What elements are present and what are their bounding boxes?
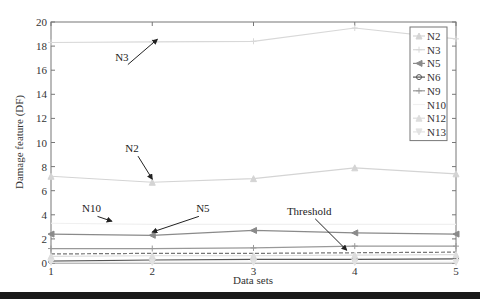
data-point [48, 39, 54, 45]
y-tick-label: 8 [42, 161, 48, 173]
series-n2 [48, 165, 459, 185]
y-tick-label: 10 [36, 137, 48, 149]
annotation-label: N3 [115, 51, 129, 63]
data-point [352, 243, 358, 249]
data-point [352, 25, 358, 31]
data-point [251, 245, 257, 251]
y-tick-label: 20 [36, 16, 48, 28]
y-axis-label: Damage feature (DF) [13, 95, 26, 189]
y-tick-label: 14 [36, 88, 48, 100]
data-point [149, 232, 155, 238]
series-n12 [48, 252, 459, 260]
x-tick-label: 4 [352, 265, 358, 277]
plot-frame [51, 22, 456, 263]
x-tick-label: 1 [48, 265, 54, 277]
annotation-arrow [315, 219, 346, 250]
legend-label: N12 [427, 112, 446, 124]
legend-label: N10 [427, 99, 446, 111]
data-point [48, 246, 54, 252]
legend-label: N6 [427, 71, 441, 83]
x-axis-label: Data sets [233, 274, 273, 286]
legend: N2N3N5N6N9N10N12N13 [410, 27, 447, 141]
legend-label: N5 [427, 57, 441, 69]
bottom-border-bar [0, 292, 480, 299]
annotation-label: N10 [82, 202, 101, 214]
annotation-arrow [98, 216, 112, 221]
data-point [352, 230, 358, 236]
annotation-label: N5 [196, 202, 210, 214]
series-line-n10 [51, 223, 456, 224]
x-tick-label: 5 [453, 265, 459, 277]
series-n9 [48, 243, 459, 251]
y-tick-label: 6 [42, 185, 48, 197]
series-n3 [48, 25, 459, 45]
data-point [251, 227, 257, 233]
annotation-arrow [128, 39, 157, 64]
annotation-label: Threshold [287, 205, 332, 217]
y-tick-label: 2 [42, 233, 48, 245]
data-point [453, 243, 459, 249]
y-tick-label: 0 [42, 257, 48, 269]
x-tick-label: 2 [150, 265, 156, 277]
legend-label: N3 [427, 44, 441, 56]
legend-label: N2 [427, 30, 440, 42]
series-group [48, 25, 459, 265]
line-chart: 0246810121416182012345 N3N2N10N5Threshol… [0, 0, 480, 299]
legend-label: N13 [427, 126, 446, 138]
annotation-arrow [138, 156, 152, 179]
y-tick-label: 18 [36, 40, 48, 52]
series-n10 [51, 223, 456, 224]
axes: 0246810121416182012345 [36, 16, 459, 277]
legend-label: N9 [427, 85, 441, 97]
annotations: N3N2N10N5Threshold [82, 39, 347, 250]
data-point [149, 246, 155, 252]
data-point [251, 38, 257, 44]
y-tick-label: 16 [36, 64, 48, 76]
y-tick-label: 12 [36, 112, 47, 124]
y-tick-label: 4 [42, 209, 48, 221]
annotation-label: N2 [125, 142, 138, 154]
series-n5 [48, 227, 459, 238]
data-point [453, 36, 459, 42]
